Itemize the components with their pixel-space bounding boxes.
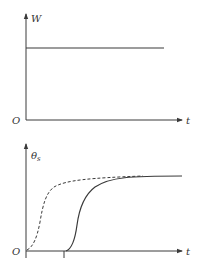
bottom-origin-label: O	[12, 246, 20, 257]
figure: W O t θs O t	[0, 0, 213, 261]
solid-curve	[66, 176, 182, 251]
bottom-chart: θs O t	[12, 144, 191, 258]
bottom-y-label: θs	[31, 150, 41, 163]
top-x-label: t	[186, 115, 191, 126]
top-chart: W O t	[12, 13, 191, 126]
dashed-curve	[27, 176, 143, 250]
top-y-label: W	[31, 13, 42, 24]
top-origin-label: O	[12, 115, 20, 126]
bottom-x-label: t	[186, 246, 191, 257]
